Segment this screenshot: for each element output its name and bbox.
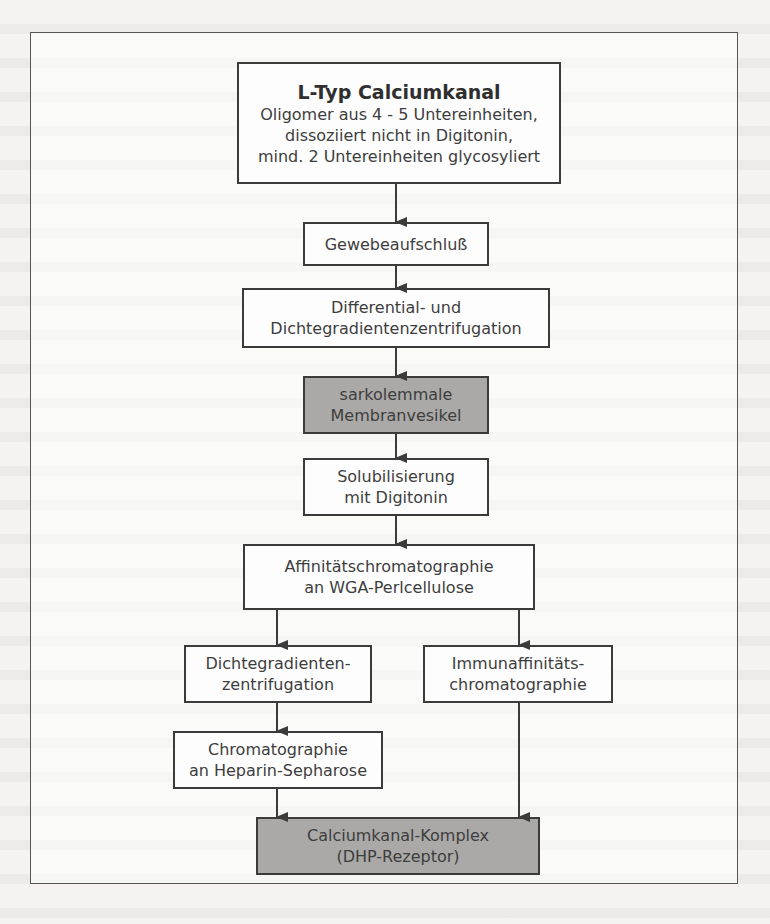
node-line: Calciumkanal-Komplex [307,825,489,846]
node-line: Solubilisierung [337,466,455,487]
node-line: mit Digitonin [344,487,448,508]
node-line: chromatographie [449,674,587,695]
node-solubilization: Solubilisierung mit Digitonin [303,458,489,516]
node-line: sarkolemmale [340,384,453,405]
node-line: Differential- und [331,297,461,318]
node-line: Chromatographie [208,739,348,760]
node-l-type-calcium-channel: L-Typ Calciumkanal Oligomer aus 4 - 5 Un… [237,62,561,184]
node-line: Dichtegradientenzentrifugation [270,318,521,339]
node-calcium-channel-complex: Calciumkanal-Komplex (DHP-Rezeptor) [256,817,540,875]
node-line: an Heparin-Sepharose [189,760,367,781]
node-line: zentrifugation [222,674,334,695]
node-line: Affinitätschromatographie [284,556,493,577]
node-differential-centrifugation: Differential- und Dichtegradientenzentri… [242,288,550,348]
node-heparin-chromatography: Chromatographie an Heparin-Sepharose [173,731,383,789]
node-line: (DHP-Rezeptor) [336,846,459,867]
node-line: Oligomer aus 4 - 5 Untereinheiten, [260,104,538,125]
node-tissue-disruption: Gewebeaufschluß [303,222,489,266]
node-affinity-chromatography: Affinitätschromatographie an WGA-Perlcel… [243,544,535,610]
node-line: mind. 2 Untereinheiten glycosyliert [258,146,540,167]
node-title: L-Typ Calciumkanal [297,80,500,104]
node-line: Gewebeaufschluß [325,234,468,255]
node-line: Membranvesikel [331,405,462,426]
node-density-gradient-centrifugation: Dichtegradienten- zentrifugation [184,645,372,703]
node-line: dissoziiert nicht in Digitonin, [285,125,513,146]
node-immunoaffinity-chromatography: Immunaffinitäts- chromatographie [423,645,613,703]
node-line: Dichtegradienten- [206,653,351,674]
node-line: Immunaffinitäts- [452,653,585,674]
node-sarcolemmal-vesicles: sarkolemmale Membranvesikel [303,376,489,434]
node-line: an WGA-Perlcellulose [304,577,474,598]
